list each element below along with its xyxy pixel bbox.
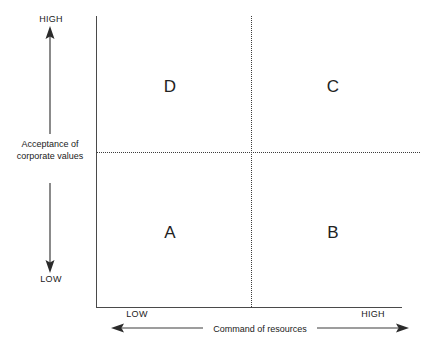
arrow-left-icon: [111, 320, 203, 338]
x-axis-label: Command of resources: [203, 324, 317, 334]
matrix-diagram: D C A B HIGH Acceptance of corporate val…: [0, 0, 431, 344]
x-axis-low-tick-label: LOW: [112, 309, 162, 319]
quadrant-label-b: B: [318, 223, 348, 243]
horizontal-axis-line: [96, 307, 402, 308]
y-axis-label: Acceptance of corporate values: [8, 139, 92, 162]
vertical-divider-line: [251, 16, 252, 307]
x-axis-label-row: Command of resources: [118, 320, 402, 338]
arrow-down-icon: [36, 183, 64, 277]
horizontal-divider-line: [97, 152, 420, 153]
y-axis-low-tick-label: LOW: [26, 274, 76, 284]
arrow-right-icon: [317, 320, 409, 338]
vertical-axis-line: [96, 16, 97, 308]
y-axis-label-line1: Acceptance of: [8, 139, 92, 151]
quadrant-label-a: A: [155, 223, 185, 243]
x-axis-high-tick-label: HIGH: [348, 309, 398, 319]
arrow-up-icon: [36, 26, 64, 138]
y-axis-high-tick-label: HIGH: [26, 14, 76, 24]
quadrant-label-c: C: [318, 77, 348, 97]
y-axis-label-line2: corporate values: [8, 151, 92, 163]
quadrant-label-d: D: [155, 77, 185, 97]
